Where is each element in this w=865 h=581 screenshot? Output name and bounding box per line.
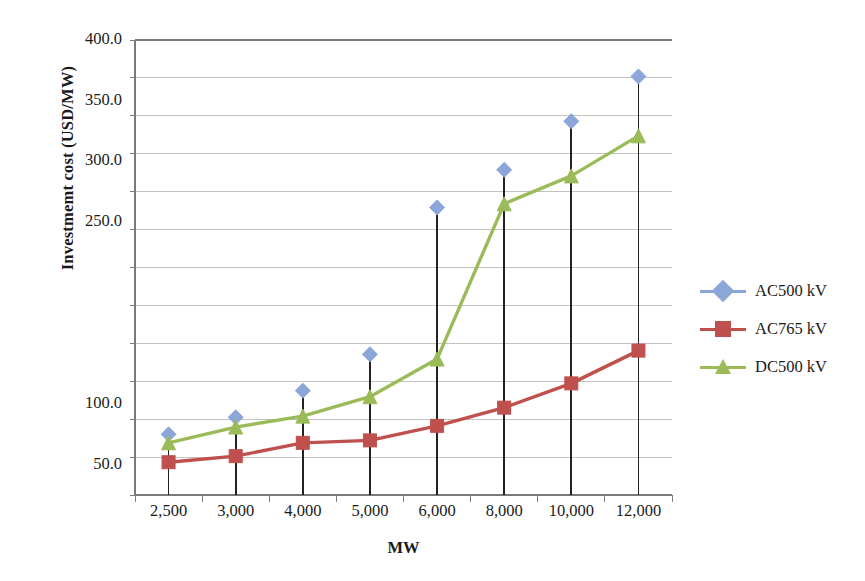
investment-cost-chart: Investmemt cost (USD/MW) 400.0350.0300.0… (0, 0, 865, 581)
legend-item[interactable]: DC500 kV (700, 348, 827, 386)
data-point-marker (497, 197, 511, 211)
data-point-marker (498, 401, 511, 414)
chart-legend: AC500 kVAC765 kVDC500 kV (700, 272, 827, 386)
data-point-marker (431, 419, 444, 432)
data-point-marker (430, 200, 445, 215)
x-axis-tick-label: 10,000 (538, 503, 605, 520)
legend-label: AC500 kV (755, 281, 827, 301)
data-point-marker (229, 450, 242, 463)
x-axis-tick-label: 12,000 (605, 503, 672, 520)
data-point-marker (565, 377, 578, 390)
x-axis-title: MW (135, 538, 672, 558)
data-point-marker (631, 129, 645, 143)
data-point-marker (296, 436, 309, 449)
legend-diamond-icon (712, 280, 735, 303)
legend-square-icon (715, 321, 731, 337)
data-point-marker (632, 344, 645, 357)
x-axis-tick-label: 3,000 (202, 503, 269, 520)
x-axis-tick-label: 5,000 (336, 503, 403, 520)
data-point-marker (362, 347, 377, 362)
legend-item[interactable]: AC765 kV (700, 310, 827, 348)
legend-label: DC500 kV (755, 357, 827, 377)
data-point-marker (631, 69, 646, 84)
data-point-marker (363, 434, 376, 447)
data-point-marker (430, 352, 444, 366)
data-point-marker (162, 456, 175, 469)
legend-triangle-icon (715, 359, 731, 374)
legend-swatch (700, 281, 746, 301)
legend-swatch (700, 319, 746, 339)
data-point-marker (295, 383, 310, 398)
x-axis-tick-label: 2,500 (135, 503, 202, 520)
legend-label: AC765 kV (755, 319, 827, 339)
legend-item[interactable]: AC500 kV (700, 272, 827, 310)
series-line (169, 351, 639, 463)
data-point-marker (497, 162, 512, 177)
x-axis-tick-label: 8,000 (471, 503, 538, 520)
x-axis-tick-label: 4,000 (269, 503, 336, 520)
x-axis-tick-label: 6,000 (404, 503, 471, 520)
legend-swatch (700, 357, 746, 377)
